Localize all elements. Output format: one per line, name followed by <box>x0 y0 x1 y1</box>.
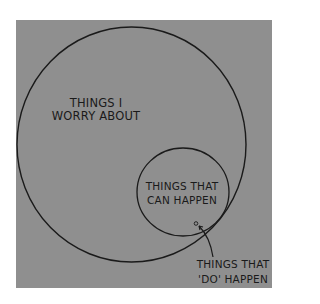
do-happen-label-line2: 'DO' HAPPEN <box>192 271 274 286</box>
do-happen-label-line1: THINGS THAT <box>192 256 274 271</box>
worry-label-line1: THINGS I <box>50 96 142 110</box>
do-happen-circle <box>194 222 198 226</box>
can-happen-label-line1: THINGS THAT <box>140 179 224 193</box>
worry-label: THINGS I WORRY ABOUT <box>50 96 142 123</box>
do-happen-label: THINGS THAT 'DO' HAPPEN <box>192 256 274 285</box>
can-happen-label: THINGS THAT CAN HAPPEN <box>140 179 224 206</box>
worry-label-line2: WORRY ABOUT <box>50 110 142 124</box>
can-happen-label-line2: CAN HAPPEN <box>140 193 224 207</box>
